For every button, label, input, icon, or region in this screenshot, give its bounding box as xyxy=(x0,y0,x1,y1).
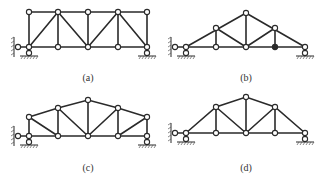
truss-d-members xyxy=(175,97,305,133)
fixed-hinge-support-icon xyxy=(168,37,178,57)
truss-c-members xyxy=(18,100,147,136)
truss-b xyxy=(168,10,314,59)
fixed-hinge-support-icon xyxy=(168,123,178,143)
caption-b: (b) xyxy=(226,72,266,83)
caption-c: (c) xyxy=(68,162,108,173)
truss-c xyxy=(11,97,156,148)
truss-b-members xyxy=(175,13,305,47)
truss-a-members xyxy=(18,12,147,47)
fixed-hinge-support-icon xyxy=(11,37,21,57)
truss-a xyxy=(11,9,156,59)
caption-a: (a) xyxy=(68,72,108,83)
truss-d xyxy=(168,94,314,145)
fixed-hinge-support-icon xyxy=(11,126,21,146)
truss-figure xyxy=(0,0,322,184)
caption-d: (d) xyxy=(226,162,266,173)
